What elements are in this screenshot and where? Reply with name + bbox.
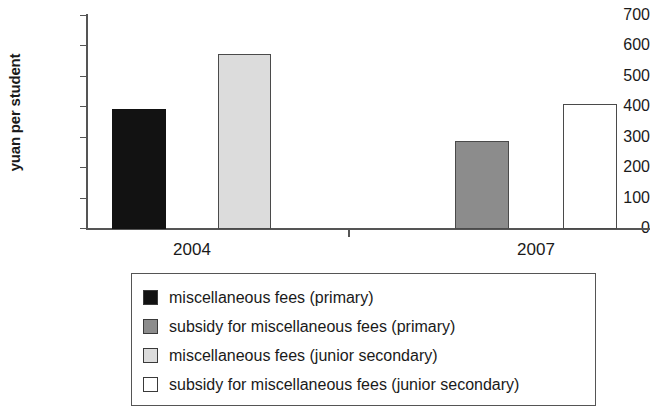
legend-label: subsidy for miscellaneous fees (primary) xyxy=(169,318,455,336)
x-category-label-2007: 2007 xyxy=(496,240,576,260)
y-axis-line xyxy=(86,14,88,229)
bar-2004-miscellaneous-fees-junior-secondary xyxy=(218,54,271,229)
y-tick-label-700: 700 xyxy=(598,7,650,23)
legend-swatch-icon-white xyxy=(143,377,158,392)
legend-label: subsidy for miscellaneous fees (junior s… xyxy=(169,376,519,394)
x-axis-category-separator xyxy=(348,229,350,237)
bar-2007-subsidy-miscellaneous-fees-primary xyxy=(455,141,509,229)
legend-label: miscellaneous fees (junior secondary) xyxy=(169,347,438,365)
legend-item-miscellaneous-fees-junior-secondary: miscellaneous fees (junior secondary) xyxy=(132,341,595,370)
y-tick-label-600: 600 xyxy=(598,37,650,53)
legend-swatch-icon-black xyxy=(143,290,158,305)
legend-item-subsidy-miscellaneous-fees-primary: subsidy for miscellaneous fees (primary) xyxy=(132,312,595,341)
bar-chart: yuan per student 700 600 500 400 300 200… xyxy=(0,0,650,408)
legend-item-subsidy-miscellaneous-fees-junior-secondary: subsidy for miscellaneous fees (junior s… xyxy=(132,370,595,399)
legend-swatch-icon-light-gray xyxy=(143,348,158,363)
x-category-label-2004: 2004 xyxy=(152,240,232,260)
bar-2007-subsidy-miscellaneous-fees-junior-secondary xyxy=(563,104,617,229)
legend-label: miscellaneous fees (primary) xyxy=(169,289,374,307)
bar-2004-miscellaneous-fees-primary xyxy=(112,109,166,229)
legend: miscellaneous fees (primary) subsidy for… xyxy=(131,273,596,406)
plot-area: 700 600 500 400 300 200 100 0 2004 2007 xyxy=(0,0,650,240)
legend-item-miscellaneous-fees-primary: miscellaneous fees (primary) xyxy=(132,283,595,312)
legend-swatch-icon-dark-gray xyxy=(143,319,158,334)
y-tick-label-500: 500 xyxy=(598,68,650,84)
